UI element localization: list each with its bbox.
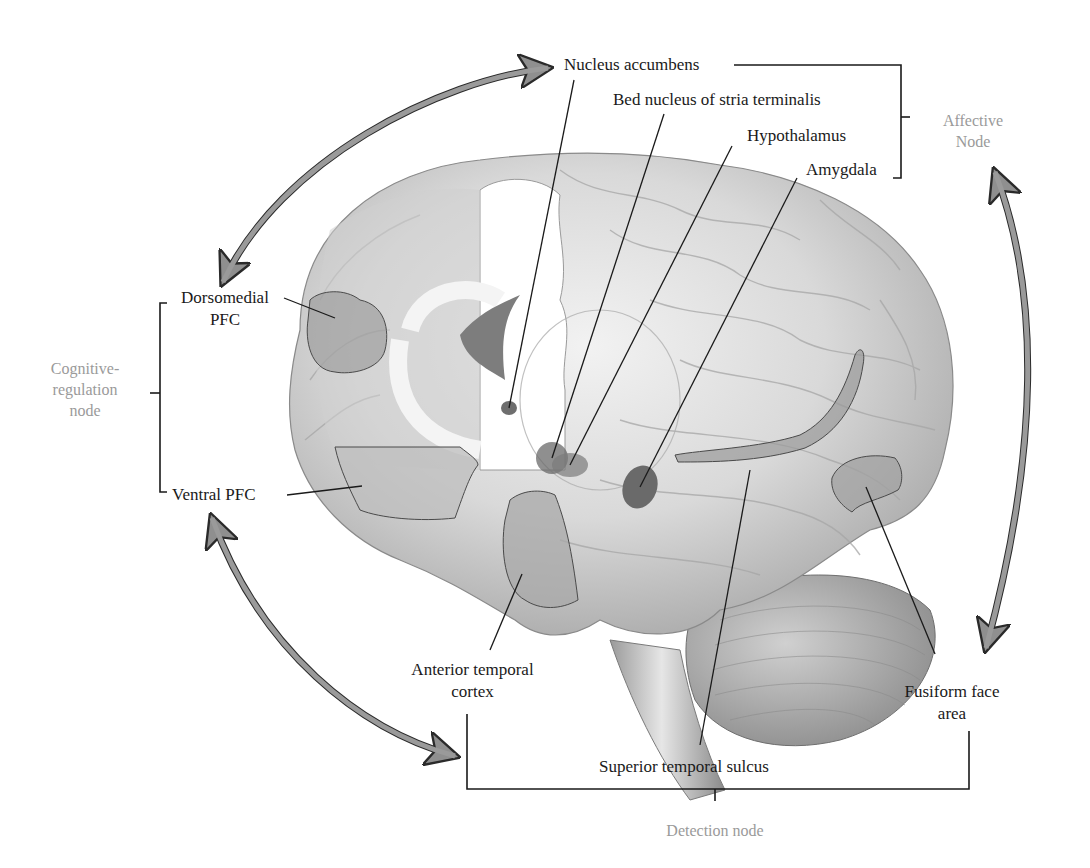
label-sts: Superior temporal sulcus: [599, 756, 769, 778]
label-atc: Anterior temporal cortex: [400, 659, 545, 703]
label-dmpfc: Dorsomedial PFC: [172, 287, 278, 331]
node-affective-line2: Node: [918, 131, 1028, 152]
label-bnst: Bed nucleus of stria terminalis: [613, 89, 821, 111]
label-ffa: Fusiform face area: [887, 681, 1017, 725]
node-affective: Affective Node: [918, 110, 1028, 152]
label-atc-line1: Anterior temporal: [400, 659, 545, 681]
node-cognitive-line2: regulation: [30, 379, 140, 400]
label-amygdala: Amygdala: [806, 159, 877, 181]
label-hypothalamus: Hypothalamus: [747, 125, 846, 147]
label-atc-line2: cortex: [400, 681, 545, 703]
label-dmpfc-line1: Dorsomedial: [172, 287, 278, 309]
label-nucleus-accumbens: Nucleus accumbens: [564, 54, 699, 76]
cognitive-bracket: [160, 303, 167, 492]
label-ffa-line1: Fusiform face: [887, 681, 1017, 703]
node-cognitive-regulation: Cognitive- regulation node: [30, 358, 140, 421]
node-cognitive-line1: Cognitive-: [30, 358, 140, 379]
label-ffa-line2: area: [887, 703, 1017, 725]
brain-network-diagram: Nucleus accumbens Bed nucleus of stria t…: [0, 0, 1090, 868]
node-affective-line1: Affective: [918, 110, 1028, 131]
node-detection: Detection node: [640, 820, 790, 841]
label-vpfc: Ventral PFC: [172, 484, 256, 506]
node-cognitive-line3: node: [30, 400, 140, 421]
arrow-affective-detection: [986, 172, 1028, 648]
label-dmpfc-line2: PFC: [172, 309, 278, 331]
